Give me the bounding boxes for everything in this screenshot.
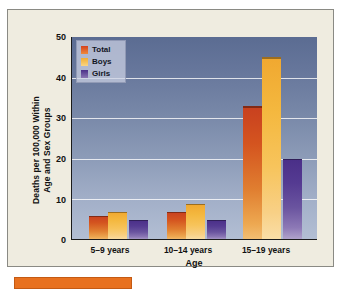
y-tick-label-20: 20 [42,154,66,164]
bar-top-edge [262,57,281,59]
caption-accent-bar [14,277,132,289]
bar-girls-15-19[interactable] [283,159,302,240]
legend: Total Boys Girls [76,40,126,83]
bar-top-edge [283,159,302,161]
bar-top-edge [167,212,186,214]
legend-label-boys: Boys [92,57,112,66]
bar-total-5-9[interactable] [89,216,108,240]
bar-boys-5-9[interactable] [108,212,127,240]
bar-total-10-14[interactable] [167,212,186,240]
bar-top-edge [108,212,127,214]
bar-top-edge [207,220,226,222]
bar-top-edge [89,216,108,218]
legend-swatch-girls-icon [81,70,88,78]
x-tick-label-15-19: 15–19 years [227,245,305,255]
y-axis-title: Deaths per 100,000 Within Age and Sex Gr… [31,55,61,245]
y-tick-label-30: 30 [42,113,66,123]
bar-girls-10-14[interactable] [207,220,226,240]
y-tick-label-0: 0 [42,235,66,245]
y-tick-label-50: 50 [42,32,66,42]
legend-item-total[interactable]: Total [81,44,121,55]
x-tick-label-5-9: 5–9 years [71,245,149,255]
bar-girls-5-9[interactable] [129,220,148,240]
legend-swatch-total-icon [81,46,88,54]
legend-label-total: Total [92,45,111,54]
bar-top-edge [129,220,148,222]
x-tick-label-10-14: 10–14 years [149,245,227,255]
bar-total-15-19[interactable] [243,106,262,240]
x-axis-title: Age [71,258,317,268]
legend-swatch-boys-icon [81,58,88,66]
y-axis-title-line2: Age and Sex Groups [42,55,53,245]
y-tick-label-40: 40 [42,73,66,83]
bar-top-edge [243,106,262,108]
legend-item-girls[interactable]: Girls [81,68,121,79]
bar-top-edge [186,204,205,206]
legend-label-girls: Girls [92,69,110,78]
bar-boys-15-19[interactable] [262,57,281,240]
y-axis-title-line1: Deaths per 100,000 Within [31,55,42,245]
bar-boys-10-14[interactable] [186,204,205,241]
y-tick-label-10: 10 [42,195,66,205]
legend-item-boys[interactable]: Boys [81,56,121,67]
